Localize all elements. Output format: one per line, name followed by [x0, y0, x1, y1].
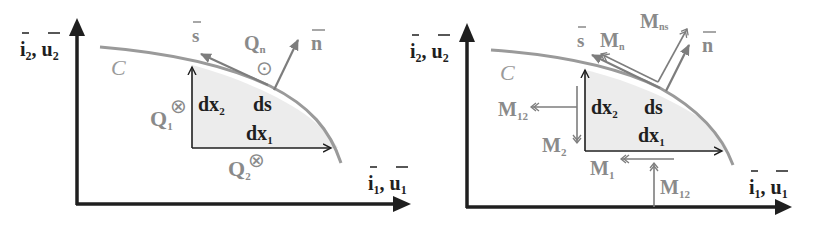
M12-left-label: M12	[498, 98, 528, 122]
left-axis-x-label: i1,u1	[368, 172, 407, 197]
left-axis-y-label: i2,u2	[20, 38, 59, 63]
right-axis-x-label: i1,u1	[749, 176, 788, 201]
into-plane-icon: ⊗	[248, 149, 265, 171]
M1-label: M1	[590, 157, 614, 181]
axis-y-arrowhead	[459, 23, 475, 42]
M12-bottom-label: M12	[660, 176, 690, 200]
Qn-label: Qn	[244, 32, 266, 55]
s-label: s	[577, 30, 584, 51]
ds-label: ds	[253, 93, 272, 115]
n-vector-arrow	[274, 40, 298, 90]
plate-element-diagrams: i2,u2 i1,u1 C s n Qn ⊙ Q1 ⊗ Q2 ⊗ dx2 ds	[0, 0, 816, 231]
axis-x-arrowhead	[393, 196, 411, 212]
curve-label: C	[111, 55, 126, 80]
into-plane-icon: ⊗	[170, 95, 187, 117]
ds-label: ds	[644, 96, 663, 118]
M2-label: M2	[542, 134, 567, 158]
right-panel: i2,u2 i1,u1 C s Mn Mns n M12 M2 M1 M12	[410, 10, 792, 215]
axis-x-arrowhead	[775, 199, 792, 215]
Mn-label: Mn	[600, 29, 625, 52]
n-label: n	[311, 32, 322, 54]
curve-label: C	[500, 60, 515, 85]
s-label: s	[192, 25, 199, 46]
axis-y-arrowhead	[69, 18, 85, 36]
right-axis-y-label: i2,u2	[410, 40, 449, 65]
out-of-plane-icon: ⊙	[256, 57, 273, 79]
n-label: n	[702, 34, 713, 56]
n-vector-arrow	[666, 45, 689, 91]
Mns-label: Mns	[640, 10, 668, 32]
left-panel: i2,u2 i1,u1 C s n Qn ⊙ Q1 ⊗ Q2 ⊗ dx2 ds	[20, 18, 411, 212]
